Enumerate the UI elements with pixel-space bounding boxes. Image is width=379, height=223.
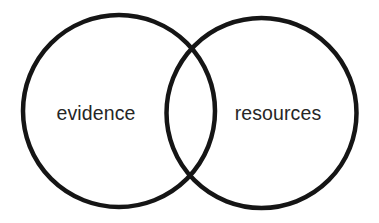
label-evidence: evidence xyxy=(57,104,136,124)
venn-diagram: evidence resources xyxy=(0,0,379,223)
label-resources: resources xyxy=(235,104,322,124)
